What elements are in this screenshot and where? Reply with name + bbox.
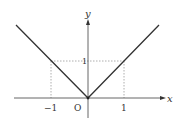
origin-label: O bbox=[74, 103, 81, 113]
y-axis-label: y bbox=[84, 8, 91, 19]
x-tick-neg1: −1 bbox=[44, 103, 57, 113]
x-tick-1: 1 bbox=[121, 103, 127, 113]
curve-abs-x bbox=[16, 25, 159, 98]
dashed-guides bbox=[51, 61, 124, 98]
axes bbox=[14, 22, 163, 118]
graph-abs-x: y x 1 −1 O 1 bbox=[0, 0, 182, 122]
y-axis-arrow-icon bbox=[86, 19, 90, 25]
y-tick-1: 1 bbox=[82, 57, 87, 66]
origin-point bbox=[87, 97, 90, 100]
x-axis-label: x bbox=[167, 93, 173, 104]
x-axis-arrow-icon bbox=[160, 96, 166, 100]
